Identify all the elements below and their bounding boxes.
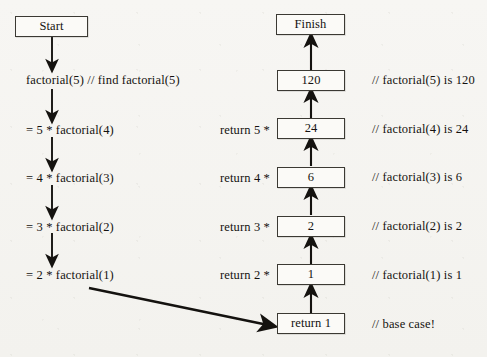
value-node-6[interactable]: 6	[277, 167, 345, 188]
diagram-canvas: Start Finish 120 24 6 2 1 return 1 facto…	[0, 0, 487, 357]
value-node-24[interactable]: 24	[277, 118, 345, 139]
start-node[interactable]: Start	[15, 16, 88, 37]
call-step-1: = 5 * factorial(4)	[26, 124, 114, 137]
value-node-2-label: 2	[308, 220, 314, 233]
value-node-24-label: 24	[305, 122, 318, 135]
return-label-3: return 3 *	[200, 221, 270, 234]
call-step-4: = 2 * factorial(1)	[26, 269, 114, 282]
base-case-node[interactable]: return 1	[277, 313, 345, 334]
value-node-1[interactable]: 1	[277, 264, 345, 285]
comment-factorial-4: // factorial(4) is 24	[372, 123, 469, 136]
base-case-node-label: return 1	[291, 317, 331, 330]
finish-node[interactable]: Finish	[276, 14, 345, 35]
comment-base-case: // base case!	[372, 318, 435, 331]
finish-node-label: Finish	[295, 18, 327, 31]
start-node-label: Start	[39, 20, 63, 33]
return-label-4: return 4 *	[200, 172, 270, 185]
call-step-0: factorial(5) // find factorial(5)	[26, 74, 180, 87]
comment-factorial-1: // factorial(1) is 1	[372, 269, 462, 282]
base-case-arrow	[89, 288, 268, 325]
comment-factorial-5: // factorial(5) is 120	[372, 74, 475, 87]
comment-factorial-2: // factorial(2) is 2	[372, 220, 462, 233]
comment-factorial-3: // factorial(3) is 6	[372, 171, 462, 184]
call-step-3: = 3 * factorial(2)	[26, 221, 114, 234]
value-node-120[interactable]: 120	[277, 70, 345, 91]
value-node-1-label: 1	[308, 268, 314, 281]
value-node-2[interactable]: 2	[277, 216, 345, 237]
call-step-2: = 4 * factorial(3)	[26, 172, 114, 185]
value-node-120-label: 120	[301, 74, 320, 87]
return-label-2: return 2 *	[200, 269, 270, 282]
value-node-6-label: 6	[308, 171, 314, 184]
return-label-5: return 5 *	[200, 124, 270, 137]
